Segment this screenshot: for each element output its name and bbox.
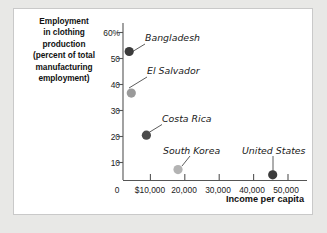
data-label-el-salvador: El Salvador bbox=[147, 65, 200, 76]
data-label-south-korea: South Korea bbox=[163, 145, 220, 156]
data-point-bangladesh[interactable] bbox=[125, 47, 134, 56]
leader-line-south-korea bbox=[182, 156, 190, 166]
data-point-united-states[interactable] bbox=[268, 170, 277, 179]
leader-line-el-salvador bbox=[129, 77, 147, 88]
data-point-costa-rica[interactable] bbox=[142, 131, 151, 140]
data-point-south-korea[interactable] bbox=[173, 165, 182, 174]
data-label-costa-rica: Costa Rica bbox=[162, 113, 212, 124]
data-label-bangladesh: Bangladesh bbox=[145, 32, 200, 43]
scatter-chart: Employment in clothing production (perce… bbox=[14, 9, 314, 216]
x-axis-title: Income per capita bbox=[194, 194, 304, 204]
data-label-united-states: United States bbox=[242, 145, 305, 156]
data-point-el-salvador[interactable] bbox=[127, 89, 136, 98]
figure-panel: Employment in clothing production (perce… bbox=[13, 8, 313, 215]
